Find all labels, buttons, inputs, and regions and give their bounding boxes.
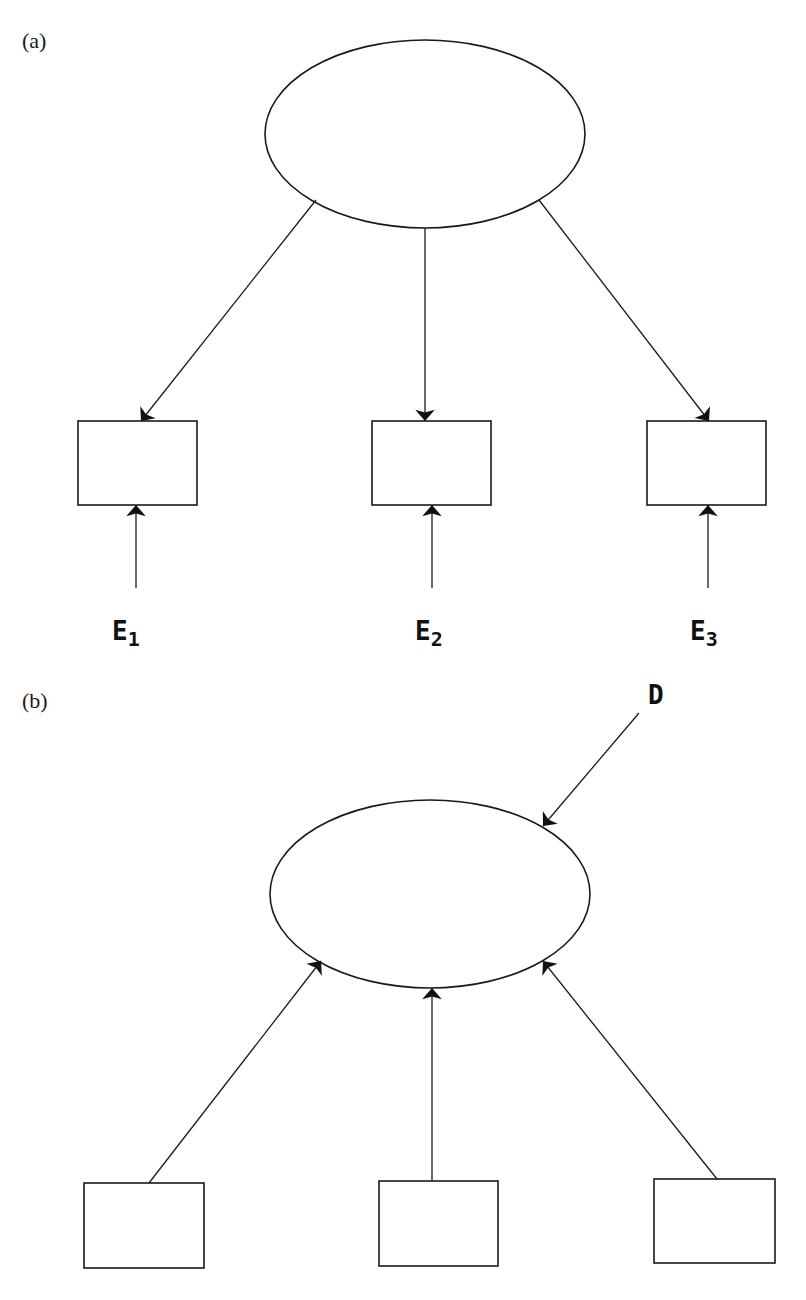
indicator-box-a1 (78, 421, 197, 505)
diagram-canvas: (a) (b) E1 E2 (0, 0, 806, 1300)
diagram-svg: E1 E2 E3 D (0, 0, 806, 1300)
indicator-box-b3 (654, 1179, 775, 1263)
indicator-box-a3 (647, 421, 766, 505)
disturbance-arrow (543, 713, 639, 826)
error-label-e2: E2 (415, 616, 443, 651)
formative-arrow-b1 (149, 961, 321, 1183)
loading-arrow-a3 (539, 200, 709, 421)
panel-a-label: (a) (22, 28, 46, 54)
disturbance-label: D (648, 680, 664, 710)
indicator-box-b1 (84, 1183, 204, 1268)
error-label-e3: E3 (690, 616, 718, 651)
latent-factor-a (265, 40, 585, 228)
panel-b-label: (b) (22, 688, 48, 714)
indicator-box-b2 (379, 1181, 498, 1266)
latent-construct-b (270, 800, 590, 988)
indicator-box-a2 (372, 421, 491, 505)
loading-arrow-a1 (141, 200, 316, 421)
error-label-e1: E1 (112, 616, 140, 651)
panel-b: D (84, 680, 775, 1268)
panel-a: E1 E2 E3 (78, 40, 766, 651)
formative-arrow-b3 (543, 961, 717, 1179)
